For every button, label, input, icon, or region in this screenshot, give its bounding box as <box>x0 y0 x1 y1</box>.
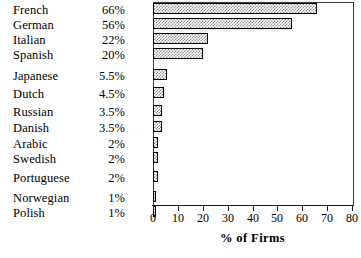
bar <box>153 137 158 148</box>
category-label: Portuguese <box>13 172 70 184</box>
value-label: 22% <box>102 34 125 46</box>
bar-chart: FrenchGermanItalianSpanishJapaneseDutchR… <box>0 0 361 258</box>
x-axis-title: % of Firms <box>153 231 352 246</box>
value-label: 1% <box>108 192 125 204</box>
bar <box>153 105 162 116</box>
value-label: 4.5% <box>99 88 125 100</box>
x-axis-tick-label: 80 <box>337 212 361 224</box>
value-label: 2% <box>108 153 125 165</box>
bar <box>153 171 158 182</box>
category-label: Swedish <box>13 153 56 165</box>
bar <box>153 48 203 59</box>
category-label: Arabic <box>13 138 48 150</box>
value-label: 2% <box>108 172 125 184</box>
category-label: Italian <box>13 34 46 46</box>
category-label: Spanish <box>13 49 53 61</box>
bar <box>153 152 158 163</box>
value-label: 1% <box>108 207 125 219</box>
category-label: French <box>13 4 48 16</box>
bar <box>153 18 292 29</box>
value-label: 3.5% <box>99 106 125 118</box>
value-label: 5.5% <box>99 70 125 82</box>
category-label: Norwegian <box>13 192 69 204</box>
value-label: 2% <box>108 138 125 150</box>
category-label: Danish <box>13 122 49 134</box>
category-label: Dutch <box>13 88 44 100</box>
bar <box>153 87 164 98</box>
bar <box>153 3 317 14</box>
bar <box>153 121 162 132</box>
value-label: 3.5% <box>99 122 125 134</box>
category-label: Russian <box>13 106 53 118</box>
bar <box>153 191 156 202</box>
category-label: German <box>13 19 54 31</box>
category-label: Japanese <box>13 70 58 82</box>
bar <box>153 69 167 80</box>
value-label: 56% <box>102 19 125 31</box>
category-label: Polish <box>13 207 45 219</box>
bar <box>153 33 208 44</box>
value-label: 66% <box>102 4 125 16</box>
value-label: 20% <box>102 49 125 61</box>
